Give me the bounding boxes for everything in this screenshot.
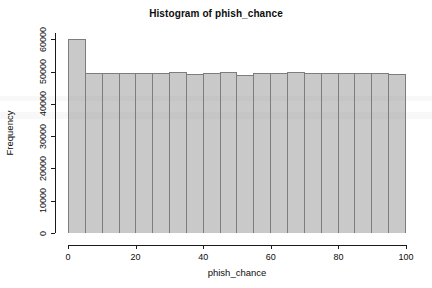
- histogram-bar: [354, 73, 372, 233]
- histogram-bar: [68, 39, 86, 233]
- histogram-bar: [169, 72, 187, 233]
- x-axis-tick: [68, 245, 69, 249]
- histogram-bar: [85, 73, 103, 233]
- y-axis-tick-label: 50000: [38, 59, 48, 84]
- histogram-bar: [152, 73, 170, 233]
- histogram-bar: [102, 73, 120, 233]
- y-axis-tick-label: 60000: [38, 27, 48, 52]
- y-axis-tick-label: 10000: [38, 188, 48, 213]
- y-axis-tick: [51, 39, 55, 40]
- y-axis-tick: [51, 136, 55, 137]
- histogram-bar: [304, 73, 322, 233]
- x-axis-tick: [271, 245, 272, 249]
- histogram-bar: [220, 72, 238, 233]
- y-axis-tick-label: 40000: [38, 91, 48, 116]
- histogram-plot: Histogram of phish_chance 020406080100 0…: [0, 0, 432, 288]
- x-axis-tick-label: 100: [398, 252, 413, 262]
- y-axis-tick: [51, 201, 55, 202]
- x-axis-tick: [203, 245, 204, 249]
- histogram-bar: [236, 75, 254, 233]
- x-axis-line: [68, 245, 406, 246]
- x-axis-tick-label: 80: [333, 252, 343, 262]
- y-axis-tick-label: 0: [38, 231, 48, 236]
- bar-series: [68, 33, 406, 233]
- histogram-bar: [203, 73, 221, 233]
- x-axis-tick-label: 0: [65, 252, 70, 262]
- histogram-bar: [135, 73, 153, 233]
- histogram-bar: [186, 74, 204, 233]
- histogram-bar: [253, 73, 271, 233]
- y-axis-title: Frequency: [4, 111, 15, 156]
- y-axis-tick-label: 20000: [38, 156, 48, 181]
- x-axis-tick: [338, 245, 339, 249]
- x-axis-title: phish_chance: [68, 267, 406, 278]
- histogram-bar: [388, 74, 406, 233]
- y-axis-tick: [51, 168, 55, 169]
- y-axis-line: [55, 33, 56, 233]
- x-axis-tick-label: 20: [131, 252, 141, 262]
- histogram-bar: [371, 73, 389, 233]
- x-axis-tick: [136, 245, 137, 249]
- x-axis-tick: [406, 245, 407, 249]
- y-axis-tick: [51, 104, 55, 105]
- histogram-bar: [287, 72, 305, 233]
- y-axis-tick-label: 30000: [38, 124, 48, 149]
- histogram-bar: [270, 73, 288, 233]
- x-axis-tick-label: 40: [198, 252, 208, 262]
- plot-area: [68, 33, 406, 233]
- chart-title: Histogram of phish_chance: [0, 8, 432, 19]
- histogram-bar: [119, 73, 137, 233]
- histogram-bar: [338, 73, 356, 233]
- y-axis-tick: [51, 72, 55, 73]
- x-axis-tick-label: 60: [266, 252, 276, 262]
- histogram-bar: [321, 73, 339, 233]
- y-axis-tick: [51, 233, 55, 234]
